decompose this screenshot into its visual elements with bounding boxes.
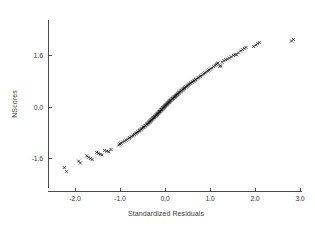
x-axis-tick-label: -2.0: [69, 195, 81, 202]
y-axis-tick-label: 1.6: [34, 52, 43, 59]
scatter-plot-canvas: -2.0-1.00.01.02.03.0-1.60.01.6 Standardi…: [0, 0, 315, 231]
qq-plot-figure: -2.0-1.00.01.02.03.0-1.60.01.6 Standardi…: [0, 0, 315, 231]
x-axis-tick-label: 3.0: [295, 195, 304, 202]
x-axis-title: Standardized Residuals: [128, 210, 205, 217]
x-axis-tick-label: 0.0: [160, 195, 169, 202]
x-axis-tick-label: -1.0: [114, 195, 126, 202]
y-axis-tick-label: 0.0: [34, 104, 43, 111]
x-axis-tick-label: 2.0: [250, 195, 259, 202]
y-axis-title: NScores: [11, 90, 18, 118]
x-axis-tick-label: 1.0: [205, 195, 214, 202]
y-axis-tick-label: -1.6: [32, 155, 44, 162]
